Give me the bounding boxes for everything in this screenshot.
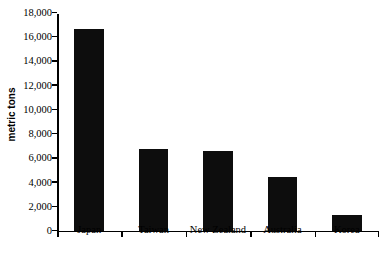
- x-category-label: Australia: [250, 224, 314, 236]
- y-tick-mark: [52, 109, 57, 111]
- y-tick-mark: [52, 60, 57, 62]
- y-tick-label: 10,000: [0, 105, 52, 115]
- y-tick-mark: [52, 36, 57, 38]
- x-category-label: Korea: [315, 224, 379, 236]
- y-tick-label: 16,000: [0, 32, 52, 42]
- y-axis-line: [57, 14, 59, 232]
- y-tick-mark: [52, 12, 57, 14]
- y-tick-label: 8,000: [0, 129, 52, 139]
- y-tick-label: 4,000: [0, 178, 52, 188]
- plot-area: 02,0004,0006,0008,00010,00012,00014,0001…: [57, 14, 379, 232]
- x-category-label: Taiwan: [121, 224, 185, 236]
- x-category-label: Japan: [57, 224, 121, 236]
- y-tick-mark: [52, 206, 57, 208]
- x-category-label: New Zealand: [186, 224, 250, 236]
- y-tick-mark: [52, 84, 57, 86]
- bar: [74, 29, 104, 230]
- bar-chart: metric tons 02,0004,0006,0008,00010,0001…: [0, 0, 386, 270]
- y-tick-mark: [52, 181, 57, 183]
- y-tick-mark: [52, 157, 57, 159]
- bar: [203, 151, 233, 231]
- y-tick-label: 6,000: [0, 153, 52, 163]
- bar: [139, 149, 169, 231]
- y-tick-label: 18,000: [0, 8, 52, 18]
- y-tick-label: 12,000: [0, 81, 52, 91]
- y-tick-label: 0: [0, 226, 52, 236]
- bar: [268, 177, 298, 230]
- y-tick-mark: [52, 133, 57, 135]
- y-tick-label: 14,000: [0, 56, 52, 66]
- y-tick-label: 2,000: [0, 202, 52, 212]
